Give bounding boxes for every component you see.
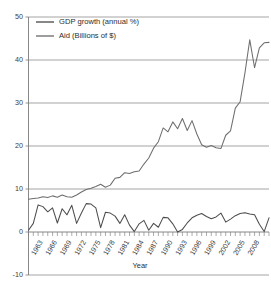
- y-tick-label: 40: [15, 55, 23, 64]
- y-tick-label: 10: [15, 184, 23, 193]
- y-tick-label: 30: [15, 98, 23, 107]
- chart-container: 50403020100-10 1963196619691972197519781…: [0, 0, 271, 288]
- y-tick-label: 20: [15, 141, 23, 150]
- legend-label: GDP growth (annual %): [59, 17, 140, 26]
- x-axis-title: Year: [133, 261, 148, 270]
- line-chart: 50403020100-10 1963196619691972197519781…: [0, 0, 271, 288]
- y-tick-label: 50: [15, 12, 23, 21]
- y-tick-label: -10: [13, 270, 23, 279]
- legend-label: Aid (Billions of $): [59, 31, 116, 40]
- y-tick-label: 0: [19, 227, 23, 236]
